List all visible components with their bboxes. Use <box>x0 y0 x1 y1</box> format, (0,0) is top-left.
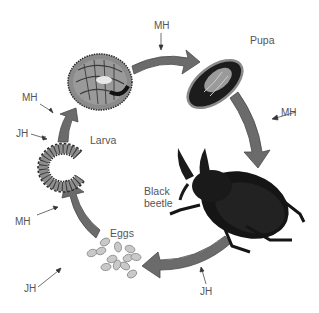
stage-label-larva: Larva <box>90 134 116 146</box>
eggs-illustration <box>86 236 141 279</box>
larva-large-illustration <box>68 54 132 110</box>
hormone-label-mh-larva: MH <box>22 92 38 103</box>
stage-label-eggs: Eggs <box>110 227 134 239</box>
arrow-larva-to-larva <box>58 108 78 142</box>
arrow-pupa-to-beetle <box>230 92 270 168</box>
beetle-life-cycle-diagram <box>0 0 319 313</box>
arrow-larva-to-pupa <box>132 50 200 74</box>
hormone-label-mh-right: MH <box>281 107 297 118</box>
hormone-label-mh-eggs: MH <box>15 216 31 227</box>
hormone-label-mh-top: MH <box>154 20 170 31</box>
hormone-label-jh-larva: JH <box>16 128 28 139</box>
stage-label-black-beetle: Black beetle <box>144 185 173 209</box>
larva-small-illustration <box>43 149 80 187</box>
stage-label-pupa: Pupa <box>250 34 275 46</box>
black-beetle-illustration <box>170 148 304 252</box>
arrow-beetle-to-eggs <box>142 236 231 278</box>
hormone-label-jh-bottom: JH <box>200 286 212 297</box>
hormone-label-jh-eggs: JH <box>24 283 36 294</box>
